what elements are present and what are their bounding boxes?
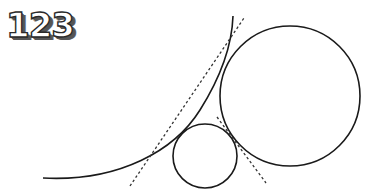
outer-arc <box>43 16 233 178</box>
small-circle <box>173 124 237 188</box>
tangent-line-left <box>130 18 244 186</box>
tangent-line-right <box>217 117 266 183</box>
geometry-diagram <box>0 0 370 189</box>
large-circle <box>220 26 360 166</box>
